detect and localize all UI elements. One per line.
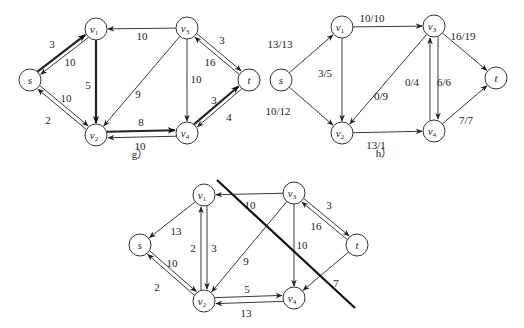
edge-label: 3	[326, 199, 332, 211]
edge-label: 16/19	[450, 30, 476, 42]
node-v3: v3	[423, 15, 445, 37]
node-subscript: 2	[95, 135, 99, 143]
node-subscript: 2	[341, 133, 345, 141]
edge-label: 9	[243, 255, 249, 267]
edge-label: 3/5	[318, 67, 333, 79]
edge-label: 0/4	[405, 76, 420, 88]
node-subscript: 3	[293, 193, 297, 201]
edge-label: 3	[49, 38, 55, 50]
node-subscript: 4	[186, 133, 190, 141]
node-subscript: 1	[341, 27, 345, 35]
edge-label: 9	[135, 88, 141, 100]
edge-label: 10	[245, 199, 257, 211]
node-subscript: 4	[433, 131, 437, 139]
edge-v3-v1	[108, 28, 176, 29]
node-v2: v2	[85, 124, 107, 146]
edge-label: 5	[244, 283, 250, 295]
graph-g: 31051091031610281034sv1v2v3v4tg）	[19, 17, 260, 160]
node-v2: v2	[331, 122, 353, 144]
node-t: t	[485, 67, 507, 89]
edge-t-v4	[303, 252, 348, 290]
graph-residual-cut: 1323109103167102513sv1v2v3v4t	[129, 180, 368, 319]
edge-label: 6/6	[437, 76, 452, 88]
edge-s-v1	[37, 35, 85, 72]
edge-label: 3	[219, 34, 225, 46]
node-v1: v1	[331, 16, 353, 38]
edge-label: 2	[45, 114, 51, 126]
edge-label: 3	[211, 242, 217, 254]
node-subscript: 1	[95, 29, 99, 37]
edge-label: 7/7	[459, 114, 474, 126]
edge-v3-v2	[212, 201, 287, 291]
edge-label: 13/13	[267, 38, 293, 50]
node-subscript: 4	[293, 298, 297, 306]
edge-v3-v1	[216, 193, 283, 194]
edge-label: 10	[61, 92, 73, 104]
edge-label: 10/12	[265, 105, 290, 117]
edge-label: 10	[65, 56, 77, 68]
edge-label: 4	[226, 111, 232, 123]
edge-label: 2	[154, 281, 160, 293]
edge-label: 5	[85, 79, 91, 91]
node-t: t	[238, 69, 260, 91]
node-v3: v3	[176, 17, 198, 39]
node-v1: v1	[85, 18, 107, 40]
edge-s-v2	[289, 87, 333, 125]
node-t: t	[346, 234, 368, 256]
caption-h: h）	[376, 147, 393, 159]
edge-v3-v2	[104, 36, 180, 125]
node-subscript: 2	[203, 301, 207, 309]
node-s: s	[129, 234, 151, 256]
edge-t-v3	[302, 202, 347, 239]
node-v2: v2	[193, 290, 215, 312]
node-v4: v4	[423, 120, 445, 142]
node-label: s	[138, 239, 142, 251]
edge-v2-v4	[107, 130, 175, 131]
edge-label: 16	[205, 56, 217, 68]
graph-h: 13/1310/1210/103/50/913/10/46/616/197/7s…	[265, 12, 507, 159]
node-v3: v3	[283, 182, 305, 204]
edge-label: 10	[137, 30, 149, 42]
node-s: s	[19, 69, 41, 91]
edge-v2-v4	[353, 131, 422, 133]
node-subscript: 3	[186, 28, 190, 36]
edge-label: 16	[311, 220, 323, 232]
edge-label: 0/9	[374, 90, 389, 102]
node-v4: v4	[176, 122, 198, 144]
edge-v4-v2	[216, 301, 283, 303]
caption-g: g）	[132, 148, 149, 160]
edge-label: 2	[190, 242, 196, 254]
node-label: s	[28, 74, 32, 86]
flow-network-diagram: 31051091031610281034sv1v2v3v4tg） 13/1310…	[0, 0, 524, 328]
node-subscript: 3	[433, 26, 437, 34]
node-s: s	[270, 69, 292, 91]
edge-label: 10	[191, 73, 203, 85]
edge-label: 10	[297, 239, 309, 251]
edge-t-v3	[195, 37, 239, 74]
edge-v2-v4	[215, 295, 282, 297]
edge-label: 3	[211, 94, 217, 106]
node-label: s	[279, 74, 283, 86]
node-subscript: 1	[203, 195, 207, 203]
edge-label: 13	[171, 225, 183, 237]
edge-label: 8	[138, 116, 144, 128]
edge-v4-v2	[108, 136, 176, 137]
edge-v1-v3	[353, 26, 422, 27]
node-v1: v1	[193, 184, 215, 206]
edge-label: 13	[241, 307, 253, 319]
edge-t-v4	[197, 89, 242, 127]
edge-label: 10/10	[359, 12, 385, 24]
node-v4: v4	[283, 287, 305, 309]
